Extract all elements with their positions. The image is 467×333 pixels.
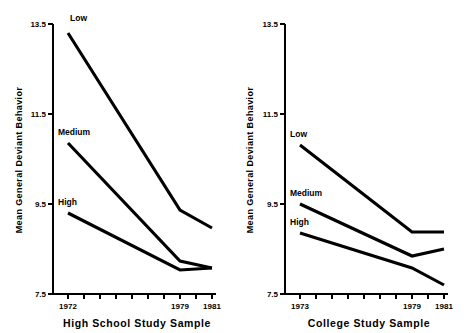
series-line-medium xyxy=(300,204,444,256)
y-axis-title: Mean General Deviant Behavior xyxy=(245,87,255,234)
x-axis-title: High School Study Sample xyxy=(63,317,211,329)
y-axis-title: Mean General Deviant Behavior xyxy=(14,87,24,234)
x-tick-label-1981: 1981 xyxy=(203,302,221,311)
y-axis-ticks xyxy=(48,24,53,294)
x-tick-label-1981: 1981 xyxy=(435,302,453,311)
y-tick-label-9-5: 9.5 xyxy=(267,200,279,209)
high-school-plot: Mean General Deviant Behavior 13.5 11.5 … xyxy=(0,0,233,333)
y-tick-label-11-5: 11.5 xyxy=(31,110,47,119)
series-label-medium: Medium xyxy=(58,127,91,137)
series-label-low: Low xyxy=(290,129,307,139)
x-tick-label-1972: 1972 xyxy=(59,302,77,311)
series-label-low: Low xyxy=(70,13,87,23)
figure-container: Mean General Deviant Behavior 13.5 11.5 … xyxy=(0,0,467,333)
chart-panel-high-school: Mean General Deviant Behavior 13.5 11.5 … xyxy=(0,0,233,333)
y-tick-label-13-5: 13.5 xyxy=(30,20,46,29)
x-axis-title: College Study Sample xyxy=(308,317,430,329)
series-label-high: High xyxy=(58,197,77,207)
y-tick-label-7-5: 7.5 xyxy=(267,290,279,299)
series-line-high xyxy=(68,213,212,270)
y-tick-label-9-5: 9.5 xyxy=(35,200,47,209)
y-axis-ticks xyxy=(280,24,285,294)
x-tick-label-1979: 1979 xyxy=(171,302,189,311)
x-tick-label-1979: 1979 xyxy=(403,302,421,311)
x-axis-ticks xyxy=(68,294,212,299)
y-tick-label-13-5: 13.5 xyxy=(262,20,278,29)
y-tick-label-7-5: 7.5 xyxy=(35,290,47,299)
college-plot: Mean General Deviant Behavior 13.5 11.5 … xyxy=(233,0,467,333)
x-tick-label-1973: 1973 xyxy=(291,302,309,311)
series-label-high: High xyxy=(290,217,309,227)
y-tick-label-11-5: 11.5 xyxy=(263,110,279,119)
x-axis-ticks xyxy=(300,294,444,299)
axis-lines xyxy=(53,24,216,294)
chart-panel-college: Mean General Deviant Behavior 13.5 11.5 … xyxy=(233,0,467,333)
series-label-medium: Medium xyxy=(290,188,323,198)
series-line-high xyxy=(300,233,444,285)
